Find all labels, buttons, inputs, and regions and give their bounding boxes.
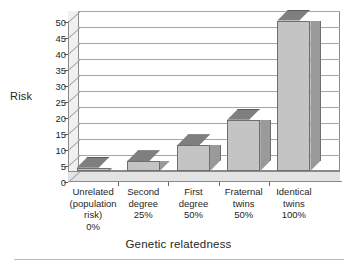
- bottom-divider: [14, 259, 344, 260]
- x-axis-category-label-line: Identical: [269, 186, 319, 198]
- bar-front-face: [77, 168, 110, 171]
- bar-side-face: [210, 145, 221, 171]
- x-axis-category-label-line: Unrelated: [68, 186, 118, 198]
- bar-top-face: [277, 10, 310, 21]
- bar: [77, 168, 110, 171]
- x-axis-category-label-line: 0%: [68, 221, 118, 233]
- bar-chart: Risk 05101520253035404550 Unrelated(popu…: [0, 0, 357, 266]
- x-axis-category-label-line: First: [168, 186, 218, 198]
- bar-front-face: [227, 120, 260, 171]
- x-axis-category-label-line: 25%: [118, 209, 168, 221]
- bar-side-face: [260, 120, 271, 171]
- bar-side-face: [110, 168, 121, 171]
- x-axis-category-label: Identicaltwins100%: [269, 186, 319, 221]
- bar: [177, 145, 210, 171]
- x-axis-category-label-line: 50%: [219, 209, 269, 221]
- x-axis-category-label-line: degree: [168, 198, 218, 210]
- x-axis-category-label-line: Second: [118, 186, 168, 198]
- bar-top-face: [227, 109, 260, 120]
- y-axis-tick-labels: 05101520253035404550: [44, 11, 66, 182]
- x-axis-category-label-line: twins: [269, 198, 319, 210]
- bar-side-face: [160, 161, 171, 171]
- bar: [277, 21, 310, 171]
- bar-top-face: [177, 134, 210, 145]
- y-axis-tick-mark: [64, 182, 68, 183]
- bar-front-face: [177, 145, 210, 171]
- bar-front-face: [277, 21, 310, 171]
- bar-front-face: [127, 161, 160, 171]
- x-axis-title: Genetic relatedness: [0, 238, 357, 250]
- bar-series: [68, 11, 342, 182]
- x-axis-category-label-line: 50%: [168, 209, 218, 221]
- x-axis-category-label-line: risk): [68, 209, 118, 221]
- y-axis-title: Risk: [10, 90, 32, 102]
- bar-top-face: [77, 157, 110, 168]
- x-axis-category-label-line: degree: [118, 198, 168, 210]
- bar-top-face: [127, 150, 160, 161]
- bar: [127, 161, 160, 171]
- x-axis-category-label-line: twins: [219, 198, 269, 210]
- x-axis-category-label: Unrelated(populationrisk)0%: [68, 186, 118, 232]
- x-axis-category-label: Firstdegree50%: [168, 186, 218, 221]
- x-axis-category-labels: Unrelated(populationrisk)0%Seconddegree2…: [62, 186, 352, 238]
- x-axis-category-label-line: (population: [68, 198, 118, 210]
- x-axis-category-label-line: 100%: [269, 209, 319, 221]
- bar: [227, 120, 260, 171]
- x-axis-category-label: Seconddegree25%: [118, 186, 168, 221]
- plot-area: [68, 11, 342, 182]
- bar-side-face: [310, 21, 321, 171]
- x-axis-category-label: Fraternaltwins50%: [219, 186, 269, 221]
- x-axis-category-label-line: Fraternal: [219, 186, 269, 198]
